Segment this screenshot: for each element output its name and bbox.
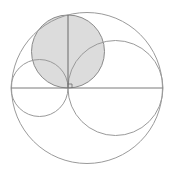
arbelos-diagram — [0, 0, 173, 173]
